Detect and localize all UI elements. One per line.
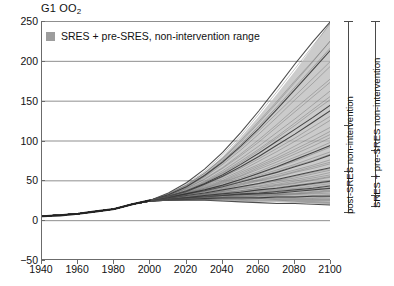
chart-title: G1 OO2 bbox=[41, 2, 82, 16]
x-tick-label: 2000 bbox=[129, 263, 169, 275]
chart-figure: G1 OO2 −50050100150200250 19401960198020… bbox=[0, 0, 394, 286]
x-tick-label: 2020 bbox=[166, 263, 206, 275]
y-tick-mark bbox=[41, 141, 45, 142]
y-tick-label: 150 bbox=[4, 95, 38, 107]
x-tick-mark bbox=[149, 260, 150, 264]
range-bars-panel: post-SRES non-interventionSRES + pre-SRE… bbox=[332, 14, 394, 264]
x-tick-mark bbox=[330, 260, 331, 264]
x-tick-label: 1960 bbox=[57, 263, 97, 275]
chart-title-subscript: 2 bbox=[77, 7, 82, 16]
y-tick-mark bbox=[41, 21, 45, 22]
x-tick-label: 2100 bbox=[310, 263, 350, 275]
y-tick-label: 250 bbox=[4, 15, 38, 27]
y-tick-label: 0 bbox=[4, 214, 38, 226]
x-tick-label: 2080 bbox=[274, 263, 314, 275]
plot-area bbox=[41, 21, 330, 260]
x-tick-mark bbox=[258, 260, 259, 264]
scenario-lines bbox=[42, 21, 330, 216]
x-tick-label: 2060 bbox=[238, 263, 278, 275]
y-tick-mark bbox=[41, 101, 45, 102]
x-tick-mark bbox=[41, 260, 42, 264]
x-tick-mark bbox=[294, 260, 295, 264]
y-axis: −50050100150200250 bbox=[0, 21, 38, 260]
x-tick-mark bbox=[77, 260, 78, 264]
y-tick-mark bbox=[41, 220, 45, 221]
range-bar-label: post-SRES non-intervention bbox=[344, 96, 355, 214]
y-tick-mark bbox=[41, 180, 45, 181]
x-tick-mark bbox=[113, 260, 114, 264]
y-tick-label: 100 bbox=[4, 135, 38, 147]
plot-canvas bbox=[42, 21, 330, 260]
legend-label: SRES + pre-SRES, non-intervention range bbox=[61, 30, 260, 42]
x-tick-label: 1980 bbox=[93, 263, 133, 275]
range-bar-tick bbox=[371, 21, 380, 22]
range-bar-label: SRES + pre-SRES non-intervention bbox=[371, 58, 382, 208]
range-bar-tick bbox=[344, 21, 353, 22]
x-tick-mark bbox=[186, 260, 187, 264]
historical-line bbox=[42, 200, 150, 216]
legend: SRES + pre-SRES, non-intervention range bbox=[46, 30, 260, 42]
legend-swatch-icon bbox=[46, 32, 55, 41]
x-tick-label: 2040 bbox=[202, 263, 242, 275]
y-tick-label: 200 bbox=[4, 55, 38, 67]
y-tick-label: 50 bbox=[4, 174, 38, 186]
x-tick-label: 1940 bbox=[21, 263, 61, 275]
x-tick-mark bbox=[222, 260, 223, 264]
chart-title-main: G1 OO bbox=[41, 2, 77, 14]
y-tick-mark bbox=[41, 61, 45, 62]
